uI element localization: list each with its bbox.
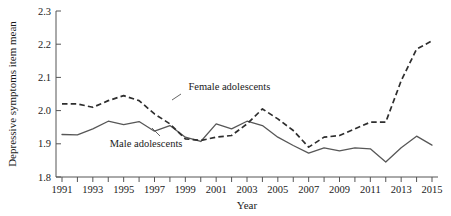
y-tick-label: 2.2	[38, 39, 51, 50]
plot-area-background	[62, 11, 432, 177]
x-tick-label: 2009	[329, 184, 350, 195]
x-tick-label: 2001	[206, 184, 227, 195]
chart-figure: 1.81.92.02.12.22.3 199119931995199719992…	[0, 0, 451, 216]
y-tick-label: 2.0	[38, 105, 51, 116]
x-tick-label: 2005	[267, 184, 288, 195]
y-axis-ticks	[56, 11, 61, 177]
x-tick-label: 1999	[175, 184, 196, 195]
x-tick-label: 1991	[52, 184, 73, 195]
female-adolescents-label: Female adolescents	[188, 81, 270, 92]
x-axis-ticks	[62, 177, 432, 182]
x-tick-label: 1997	[144, 184, 165, 195]
y-axis-title: Depressive symptoms item mean	[6, 21, 18, 167]
x-axis-tick-labels: 1991199319951997199920012003200520072009…	[52, 184, 443, 195]
y-axis-tick-labels: 1.81.92.02.12.22.3	[38, 6, 51, 183]
x-tick-label: 2013	[391, 184, 412, 195]
x-tick-label: 2003	[237, 184, 258, 195]
y-tick-label: 2.1	[38, 72, 51, 83]
depressive-symptoms-line-chart: 1.81.92.02.12.22.3 199119931995199719992…	[0, 0, 451, 216]
x-tick-label: 1995	[113, 184, 134, 195]
x-tick-label: 1993	[82, 184, 103, 195]
male-adolescents-label: Male adolescents	[110, 138, 183, 149]
x-tick-label: 2007	[298, 184, 319, 195]
y-tick-label: 2.3	[38, 6, 51, 17]
x-axis-title: Year	[237, 199, 258, 211]
y-tick-label: 1.8	[38, 172, 51, 183]
x-tick-label: 2015	[422, 184, 443, 195]
y-tick-label: 1.9	[38, 138, 51, 149]
x-tick-label: 2011	[360, 184, 381, 195]
